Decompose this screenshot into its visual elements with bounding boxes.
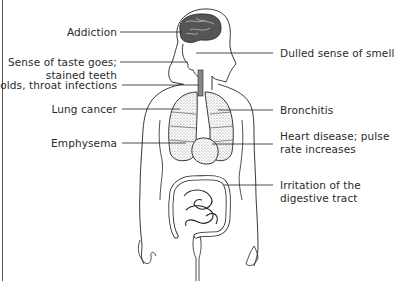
label-text: Irritation of the [280, 179, 361, 192]
label-text: digestive tract [280, 192, 361, 205]
label-digestive: Irritation of the digestive tract [280, 179, 361, 205]
rectum [193, 236, 201, 281]
label-text: Dulled sense of smell [280, 47, 394, 60]
label-text: Lung cancer [52, 103, 118, 116]
left-hand [138, 240, 156, 264]
label-text: Bronchitis [280, 104, 333, 117]
right-hand [246, 246, 258, 266]
label-addiction: Addiction [67, 26, 117, 39]
label-text: Emphysema [51, 137, 117, 150]
large-intestine [171, 178, 229, 236]
label-text: rate increases [280, 143, 389, 156]
label-text: Colds, throat infections [0, 79, 117, 92]
brain [180, 14, 221, 43]
hair-left [169, 42, 182, 84]
label-emphysema: Emphysema [51, 137, 117, 150]
trachea [198, 70, 203, 96]
label-text: Heart disease; pulse [280, 130, 389, 143]
label-bronchitis: Bronchitis [280, 104, 333, 117]
right-arm-inner [239, 120, 243, 200]
small-intestine [184, 190, 217, 226]
label-lung-cancer: Lung cancer [52, 103, 118, 116]
left-arm-inner [159, 120, 162, 200]
label-heart: Heart disease; pulse rate increases [280, 130, 389, 156]
label-colds: Colds, throat infections [0, 79, 117, 92]
label-text: Sense of taste goes; [8, 56, 117, 69]
label-text: Addiction [67, 26, 117, 39]
label-smell: Dulled sense of smell [280, 47, 394, 60]
heart [192, 138, 218, 164]
